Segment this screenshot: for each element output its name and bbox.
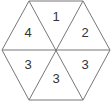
triangle-bottom-left-label: 3 (24, 57, 31, 72)
triangle-top-label: 1 (52, 9, 59, 24)
triangle-bottom-label: 3 (52, 71, 59, 86)
triangle-top-left-label: 4 (24, 25, 31, 40)
triangle-bottom-right-label: 3 (81, 57, 88, 72)
hexagon-diagram: 1 2 3 3 3 4 (0, 0, 111, 102)
triangle-top-right-label: 2 (81, 25, 88, 40)
